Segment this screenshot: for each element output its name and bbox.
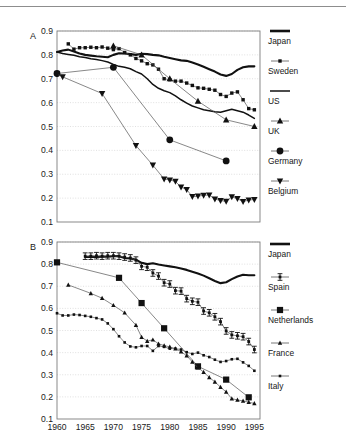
legend-label-netherlands: Netherlands — [268, 315, 313, 325]
legend-label-japan: Japan — [268, 249, 291, 259]
chart-canvas-b: 0.10.20.30.40.50.60.70.80.91960196519701… — [0, 231, 266, 439]
legend-label-germany: Germany — [268, 156, 302, 166]
legend-label-italy: Italy — [268, 381, 283, 391]
svg-text:0.6: 0.6 — [41, 303, 53, 313]
svg-text:1965: 1965 — [76, 225, 95, 226]
svg-text:1995: 1995 — [245, 225, 264, 226]
svg-text:0.2: 0.2 — [41, 193, 53, 203]
svg-text:0.9: 0.9 — [41, 237, 53, 247]
svg-text:1965: 1965 — [76, 422, 95, 432]
svg-text:1975: 1975 — [132, 422, 151, 432]
svg-text:0.8: 0.8 — [41, 50, 53, 60]
svg-text:0.4: 0.4 — [41, 348, 53, 358]
panel-a: A 0.10.20.30.40.50.60.70.80.919601965197… — [0, 14, 346, 226]
svg-text:0.7: 0.7 — [41, 74, 53, 84]
legend-label-sweden: Sweden — [268, 66, 298, 76]
svg-text:1990: 1990 — [217, 422, 236, 432]
svg-text:0.2: 0.2 — [41, 392, 53, 402]
legend-label-uk: UK — [268, 126, 280, 136]
svg-text:0.5: 0.5 — [41, 326, 53, 336]
chart-canvas-a: 0.10.20.30.40.50.60.70.80.91960196519701… — [0, 14, 266, 226]
svg-text:1980: 1980 — [160, 422, 179, 432]
svg-text:0.5: 0.5 — [41, 122, 53, 132]
legend-label-belgium: Belgium — [268, 186, 298, 196]
svg-text:1960: 1960 — [47, 422, 66, 432]
svg-text:1970: 1970 — [104, 225, 123, 226]
svg-text:1990: 1990 — [217, 225, 236, 226]
svg-text:0.9: 0.9 — [41, 26, 53, 36]
legend-label-japan: Japan — [268, 36, 291, 46]
legend-label-france: France — [268, 348, 294, 358]
svg-text:1975: 1975 — [132, 225, 151, 226]
panel-b-plot: 0.10.20.30.40.50.60.70.80.91960196519701… — [0, 231, 266, 439]
svg-text:1970: 1970 — [104, 422, 123, 432]
svg-text:0.8: 0.8 — [41, 259, 53, 269]
svg-text:1985: 1985 — [188, 225, 207, 226]
svg-text:0.4: 0.4 — [41, 145, 53, 155]
top-divider-rule — [0, 6, 346, 7]
svg-text:0.3: 0.3 — [41, 169, 53, 179]
svg-text:1980: 1980 — [160, 225, 179, 226]
legend-label-spain: Spain — [268, 282, 289, 292]
svg-text:1995: 1995 — [245, 422, 264, 432]
svg-text:0.6: 0.6 — [41, 98, 53, 108]
svg-text:1960: 1960 — [47, 225, 66, 226]
legend-label-us: US — [268, 96, 280, 106]
svg-text:0.7: 0.7 — [41, 281, 53, 291]
panel-b: B 0.10.20.30.40.50.60.70.80.919601965197… — [0, 231, 346, 439]
svg-text:0.3: 0.3 — [41, 370, 53, 380]
svg-text:1985: 1985 — [188, 422, 207, 432]
panel-a-plot: 0.10.20.30.40.50.60.70.80.91960196519701… — [0, 14, 266, 226]
